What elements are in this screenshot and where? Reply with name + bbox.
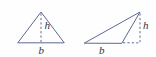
- obtuse-height-label: h: [143, 19, 149, 31]
- obtuse-triangle-group: h b: [85, 12, 150, 56]
- acute-base-label: b: [39, 44, 45, 56]
- obtuse-triangle-outline: [85, 12, 141, 43]
- acute-triangle-group: h b: [18, 12, 64, 56]
- figure-canvas: h b h b: [0, 0, 156, 57]
- triangle-figure: h b h b: [0, 0, 156, 57]
- acute-height-label: h: [45, 19, 51, 31]
- obtuse-base-label: b: [99, 44, 105, 56]
